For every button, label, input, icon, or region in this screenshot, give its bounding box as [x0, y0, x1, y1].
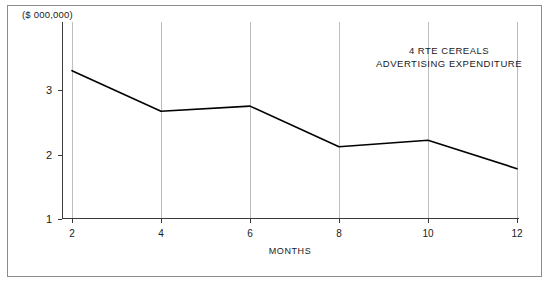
- y-tick-label-3: 3: [40, 84, 52, 96]
- gridline-vertical-4: [161, 22, 162, 218]
- x-tick-8: [339, 219, 340, 223]
- gridline-vertical-2: [72, 22, 73, 218]
- y-tick-label-2: 2: [40, 149, 52, 161]
- gridline-vertical-6: [250, 22, 251, 218]
- y-axis-line: [62, 22, 63, 219]
- x-tick-label-8: 8: [336, 228, 342, 239]
- chart-annotation: 4 RTE CEREALS ADVERTISING EXPENDITURE: [376, 44, 522, 70]
- x-axis-line: [62, 218, 519, 219]
- x-tick-10: [428, 219, 429, 223]
- gridline-vertical-8: [339, 22, 340, 218]
- y-axis-unit-caption: ($ 000,000): [22, 9, 73, 20]
- chart-page: ($ 000,000) 3 2 1 2 4 6 8 10 12 MONTHS 4…: [0, 0, 555, 287]
- x-tick-label-12: 12: [511, 228, 522, 239]
- x-tick-2: [72, 219, 73, 223]
- y-tick-3: [58, 90, 62, 91]
- y-tick-label-1: 1: [40, 213, 52, 225]
- x-tick-label-10: 10: [422, 228, 433, 239]
- x-tick-label-2: 2: [69, 228, 75, 239]
- x-tick-label-4: 4: [158, 228, 164, 239]
- x-tick-12: [517, 219, 518, 223]
- x-axis-title: MONTHS: [269, 246, 312, 256]
- x-tick-label-6: 6: [247, 228, 253, 239]
- y-tick-2: [58, 155, 62, 156]
- x-tick-6: [250, 219, 251, 223]
- x-tick-4: [161, 219, 162, 223]
- annotation-line-2: ADVERTISING EXPENDITURE: [376, 57, 522, 70]
- y-tick-1: [58, 219, 62, 220]
- annotation-line-1: 4 RTE CEREALS: [376, 44, 522, 57]
